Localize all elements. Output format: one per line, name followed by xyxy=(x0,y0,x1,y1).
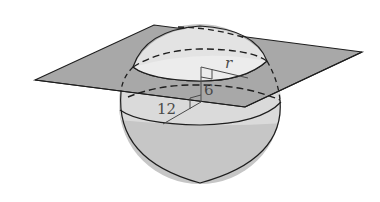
label-6: 6 xyxy=(204,81,214,99)
sphere-plane-diagram: r 6 12 xyxy=(0,0,380,202)
label-12: 12 xyxy=(157,100,176,118)
label-r: r xyxy=(225,54,233,72)
